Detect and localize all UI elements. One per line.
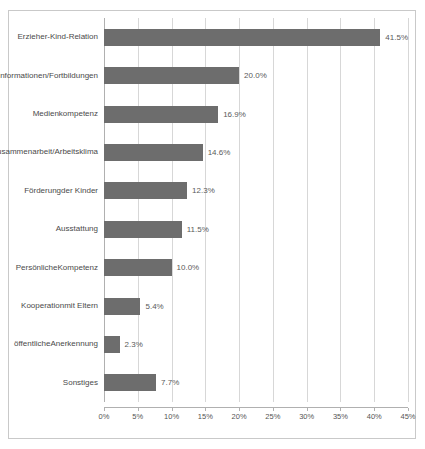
category-label-line: Förderung — [24, 186, 61, 196]
x-tick-label: 30% — [299, 412, 314, 421]
bar-row: 16.9% — [104, 95, 408, 133]
category-label: Erzieher-Kind-Relation — [9, 18, 104, 56]
x-tick-mark — [239, 408, 240, 411]
x-tick-mark — [104, 408, 105, 411]
bar-value-label: 10.0% — [177, 263, 200, 272]
category-label-line: Sonstiges — [63, 378, 98, 388]
bar-row: 14.6% — [104, 133, 408, 171]
gridline-45pct — [408, 18, 409, 402]
category-label-line: Anerkennung — [50, 339, 98, 349]
category-label-line: mit Eltern — [64, 301, 98, 311]
category-label-line: Informationen/ — [0, 71, 49, 81]
category-axis: Erzieher-Kind-RelationInformationen/Fort… — [9, 18, 104, 402]
x-tick-label: 0% — [99, 412, 110, 421]
bar-value-label: 41.5% — [385, 33, 408, 42]
category-label: Informationen/Fortbildungen — [9, 56, 104, 94]
x-axis: 0%5%10%15%20%25%30%35%40%45% — [104, 408, 408, 422]
category-label: Sonstiges — [9, 364, 104, 402]
bar-value-label: 7.7% — [161, 378, 179, 387]
bar[interactable] — [104, 221, 182, 238]
bar-value-label: 20.0% — [244, 71, 267, 80]
bar-row: 11.5% — [104, 210, 408, 248]
x-tick-mark — [340, 408, 341, 411]
bar-row: 41.5% — [104, 18, 408, 56]
x-tick-mark — [138, 408, 139, 411]
category-label-line: Persönliche — [16, 263, 58, 273]
chart-frame: Erzieher-Kind-RelationInformationen/Fort… — [8, 10, 416, 439]
category-label: Kooperationmit Eltern — [9, 287, 104, 325]
bar-row: 10.0% — [104, 248, 408, 286]
bar-row: 5.4% — [104, 287, 408, 325]
category-label: PersönlicheKompetenz — [9, 248, 104, 286]
x-tick-mark — [205, 408, 206, 411]
x-tick-label: 40% — [367, 412, 382, 421]
x-tick-label: 35% — [333, 412, 348, 421]
bar[interactable] — [104, 144, 203, 161]
x-tick-mark — [374, 408, 375, 411]
bar-value-label: 2.3% — [125, 340, 143, 349]
category-label-line: Medienkompetenz — [33, 109, 98, 119]
x-tick-mark — [408, 408, 409, 411]
category-label-line: Kompetenz — [58, 263, 98, 273]
bar[interactable] — [104, 67, 239, 84]
category-label-line: Fortbildungen — [49, 71, 98, 81]
x-tick-label: 5% — [132, 412, 143, 421]
bar[interactable] — [104, 374, 156, 391]
category-label-line: der Kinder — [61, 186, 98, 196]
bar[interactable] — [104, 298, 140, 315]
bar-row: 7.7% — [104, 364, 408, 402]
bar[interactable] — [104, 182, 187, 199]
plot-area: 41.5%20.0%16.9%14.6%12.3%11.5%10.0%5.4%2… — [104, 18, 408, 402]
bar[interactable] — [104, 29, 380, 46]
x-tick-label: 10% — [164, 412, 179, 421]
bar-row: 12.3% — [104, 172, 408, 210]
x-tick-label: 25% — [265, 412, 280, 421]
bar-row: 2.3% — [104, 325, 408, 363]
bar-value-label: 12.3% — [192, 186, 215, 195]
x-tick-mark — [273, 408, 274, 411]
x-tick-mark — [172, 408, 173, 411]
x-tick-label: 20% — [232, 412, 247, 421]
x-tick-mark — [307, 408, 308, 411]
bar[interactable] — [104, 336, 120, 353]
bar[interactable] — [104, 106, 218, 123]
bar-value-label: 11.5% — [187, 225, 209, 234]
category-label-line: Zusammenarbeit/ — [0, 147, 54, 157]
category-label: öffentlicheAnerkennung — [9, 325, 104, 363]
x-tick-label: 45% — [400, 412, 415, 421]
category-label-line: Ausstattung — [56, 224, 98, 234]
category-label-line: Kooperation — [21, 301, 64, 311]
category-label: Medienkompetenz — [9, 95, 104, 133]
category-label-line: Arbeitsklima — [54, 147, 98, 157]
category-label: Zusammenarbeit/Arbeitsklima — [9, 133, 104, 171]
bar[interactable] — [104, 259, 172, 276]
bar-value-label: 14.6% — [208, 148, 231, 157]
bar-rows: 41.5%20.0%16.9%14.6%12.3%11.5%10.0%5.4%2… — [104, 18, 408, 402]
bar-value-label: 5.4% — [145, 302, 163, 311]
category-label: Ausstattung — [9, 210, 104, 248]
category-label-line: Erzieher-Kind- — [18, 32, 69, 42]
category-label-line: öffentliche — [14, 339, 50, 349]
x-tick-label: 15% — [198, 412, 213, 421]
bar-value-label: 16.9% — [223, 110, 246, 119]
category-label-line: Relation — [69, 32, 98, 42]
category-label: Förderungder Kinder — [9, 172, 104, 210]
bar-row: 20.0% — [104, 56, 408, 94]
